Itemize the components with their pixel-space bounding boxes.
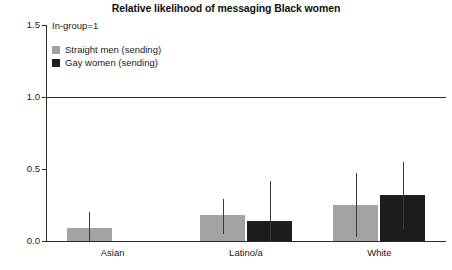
y-tick-mark	[42, 25, 47, 26]
plot-area: 0.00.51.01.5 AsianLatino/aWhite	[46, 25, 446, 241]
y-tick-mark	[42, 241, 47, 242]
error-bar-latino-a-gay-women	[270, 181, 271, 241]
y-tick-mark	[42, 97, 47, 98]
category-label-latino-a: Latino/a	[229, 247, 263, 258]
error-bar-white-straight-men	[356, 173, 357, 236]
y-tick-label: 1.5	[27, 20, 40, 30]
category-label-white: White	[367, 247, 391, 258]
y-tick-mark	[42, 169, 47, 170]
y-tick-label: 0.0	[27, 236, 40, 246]
category-label-asian: Asian	[101, 247, 125, 258]
error-bar-white-gay-women	[403, 162, 404, 230]
chart-figure: Relative likelihood of messaging Black w…	[0, 0, 452, 270]
reference-line-at-one	[46, 97, 446, 98]
y-tick-label: 1.0	[27, 92, 40, 102]
error-bar-latino-a-straight-men	[223, 199, 224, 234]
error-bar-asian-straight-men	[89, 212, 90, 241]
y-axis-line	[46, 25, 47, 242]
chart-title: Relative likelihood of messaging Black w…	[0, 2, 452, 14]
y-tick-label: 0.5	[27, 164, 40, 174]
x-axis-line	[46, 241, 446, 242]
